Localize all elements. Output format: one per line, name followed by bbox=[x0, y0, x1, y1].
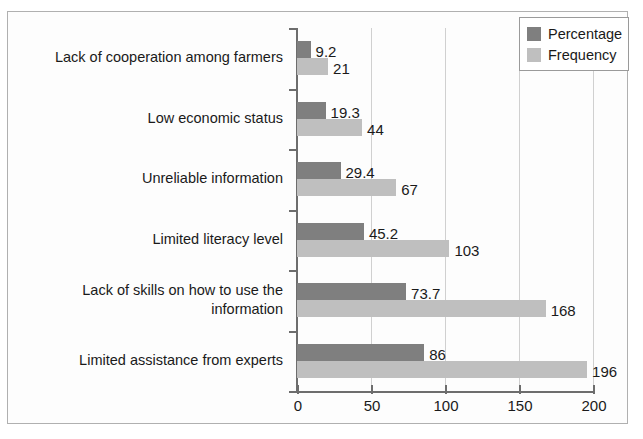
gridline-50 bbox=[371, 28, 372, 391]
bar-value-frequency: 196 bbox=[592, 364, 617, 379]
bar-value-percentage: 86 bbox=[429, 347, 446, 362]
bar-value-percentage: 29.4 bbox=[346, 165, 375, 180]
bar-value-percentage: 9.2 bbox=[316, 44, 337, 59]
bar-value-frequency: 67 bbox=[401, 182, 418, 197]
x-tick-label: 50 bbox=[364, 397, 381, 414]
legend-item-percentage: Percentage bbox=[527, 23, 622, 44]
gridline-200 bbox=[593, 28, 594, 391]
gridline-150 bbox=[519, 28, 520, 391]
bar-percentage bbox=[297, 102, 326, 119]
x-tick-150 bbox=[519, 385, 521, 394]
y-tick bbox=[289, 270, 298, 272]
bar-percentage bbox=[297, 283, 406, 300]
bar-frequency bbox=[297, 119, 362, 136]
category-label: Limited assistance from experts bbox=[16, 351, 283, 370]
plot-area bbox=[297, 28, 593, 391]
bar-frequency bbox=[297, 58, 328, 75]
bar-frequency bbox=[297, 179, 396, 196]
category-label: Lack of skills on how to use the informa… bbox=[16, 281, 283, 319]
bar-frequency bbox=[297, 240, 449, 257]
x-tick-label: 150 bbox=[507, 397, 532, 414]
bar-frequency bbox=[297, 361, 587, 378]
category-label: Limited literacy level bbox=[16, 230, 283, 249]
y-tick bbox=[289, 149, 298, 151]
x-tick-200 bbox=[593, 385, 595, 394]
category-label: Lack of cooperation among farmers bbox=[16, 48, 283, 67]
x-tick-label: 200 bbox=[581, 397, 606, 414]
gridline-100 bbox=[445, 28, 446, 391]
bar-value-frequency: 44 bbox=[367, 122, 384, 137]
bar-percentage bbox=[297, 223, 364, 240]
bar-value-frequency: 21 bbox=[333, 61, 350, 76]
legend-swatch-frequency bbox=[527, 48, 541, 62]
y-tick bbox=[289, 28, 298, 30]
bar-percentage bbox=[297, 41, 311, 58]
legend-label-frequency: Frequency bbox=[548, 47, 617, 63]
x-tick-50 bbox=[371, 385, 373, 394]
bar-value-percentage: 45.2 bbox=[369, 226, 398, 241]
y-tick bbox=[289, 391, 298, 393]
bar-value-percentage: 19.3 bbox=[331, 105, 360, 120]
category-label: Unreliable information bbox=[16, 169, 283, 188]
y-tick bbox=[289, 89, 298, 91]
category-label: Low economic status bbox=[16, 109, 283, 128]
bar-value-frequency: 103 bbox=[454, 243, 479, 258]
chart-legend: Percentage Frequency bbox=[519, 17, 629, 71]
bar-percentage bbox=[297, 344, 424, 361]
y-tick bbox=[289, 331, 298, 333]
legend-swatch-percentage bbox=[527, 27, 541, 41]
bar-frequency bbox=[297, 300, 546, 317]
chart-frame: Percentage Frequency 0501001502009.221La… bbox=[7, 11, 628, 424]
x-tick-label: 0 bbox=[294, 397, 302, 414]
x-tick-100 bbox=[445, 385, 447, 394]
bar-percentage bbox=[297, 162, 341, 179]
y-tick bbox=[289, 210, 298, 212]
legend-label-percentage: Percentage bbox=[548, 26, 622, 42]
x-tick-label: 100 bbox=[433, 397, 458, 414]
legend-item-frequency: Frequency bbox=[527, 44, 622, 65]
bar-value-percentage: 73.7 bbox=[411, 286, 440, 301]
bar-value-frequency: 168 bbox=[551, 303, 576, 318]
